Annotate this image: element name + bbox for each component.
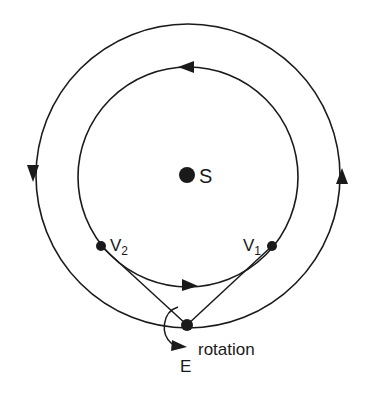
- rotation-arrowhead-icon: [171, 340, 187, 351]
- inner-orbit-arrow-bottom-icon: [182, 279, 198, 291]
- outer-orbit-arrow-left-icon: [27, 165, 39, 182]
- point-v1: [267, 241, 277, 251]
- point-v1-label: V1: [243, 236, 261, 258]
- inner-orbit-arrow-top-icon: [178, 61, 194, 73]
- outer-orbit-arrow-right-icon: [336, 168, 348, 184]
- point-earth: [181, 319, 193, 331]
- point-earth-label: E: [180, 357, 191, 376]
- point-v2: [96, 241, 106, 251]
- sun-label: S: [199, 165, 212, 187]
- rotation-arrow-icon: [164, 307, 178, 344]
- point-v2-label: V2: [110, 236, 128, 258]
- sun-dot: [179, 167, 195, 183]
- rotation-label: rotation: [198, 340, 255, 359]
- orbital-diagram: S V2 V1 E rotation: [0, 0, 367, 396]
